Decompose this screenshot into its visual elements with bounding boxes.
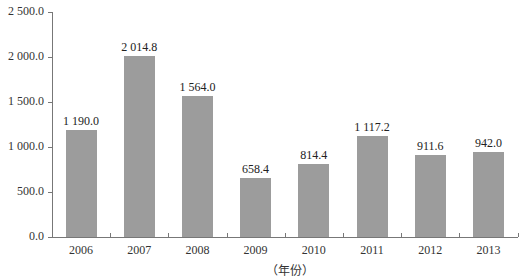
x-tick-label: 2007	[110, 243, 168, 258]
value-label: 658.4	[227, 162, 285, 177]
value-label: 942.0	[459, 136, 517, 151]
x-tick-label: 2008	[168, 243, 226, 258]
x-tick	[110, 233, 111, 237]
y-tick-label: 500.0	[0, 184, 44, 199]
x-tick-label: 2011	[343, 243, 401, 258]
y-tick-label: 1 000.0	[0, 139, 44, 154]
x-tick-label: 2010	[285, 243, 343, 258]
y-tick-label: 0.0	[0, 229, 44, 244]
bar-2013	[473, 152, 504, 237]
x-tick-label: 2012	[401, 243, 459, 258]
y-tick-label: 2 000.0	[0, 49, 44, 64]
x-tick	[227, 233, 228, 237]
value-label: 911.6	[401, 139, 459, 154]
bar-2011	[357, 136, 388, 237]
y-tick-label: 1 500.0	[0, 94, 44, 109]
y-tick	[48, 147, 52, 148]
x-tick-label: 2006	[52, 243, 110, 258]
x-tick	[285, 233, 286, 237]
x-axis-title: （年份）	[230, 261, 350, 279]
x-axis	[52, 237, 518, 238]
y-tick	[48, 102, 52, 103]
x-tick	[343, 233, 344, 237]
y-tick	[48, 57, 52, 58]
x-tick	[518, 233, 519, 237]
x-tick	[459, 233, 460, 237]
x-tick-label: 2009	[227, 243, 285, 258]
bar-chart: 0.0500.01 000.01 500.02 000.02 500.0 1 1…	[0, 0, 522, 280]
bar-2008	[182, 96, 213, 237]
y-tick	[48, 237, 52, 238]
value-label: 1 117.2	[343, 120, 401, 135]
bar-2010	[298, 164, 329, 237]
value-label: 814.4	[285, 148, 343, 163]
y-tick	[48, 12, 52, 13]
bar-2006	[66, 130, 97, 237]
value-label: 1 190.0	[52, 114, 110, 129]
x-tick	[168, 233, 169, 237]
x-tick	[401, 233, 402, 237]
bar-2009	[240, 178, 271, 237]
y-tick-label: 2 500.0	[0, 4, 44, 19]
y-tick	[48, 192, 52, 193]
value-label: 1 564.0	[168, 80, 226, 95]
bar-2007	[124, 56, 155, 237]
x-tick-label: 2013	[459, 243, 517, 258]
value-label: 2 014.8	[110, 40, 168, 55]
bar-2012	[415, 155, 446, 237]
